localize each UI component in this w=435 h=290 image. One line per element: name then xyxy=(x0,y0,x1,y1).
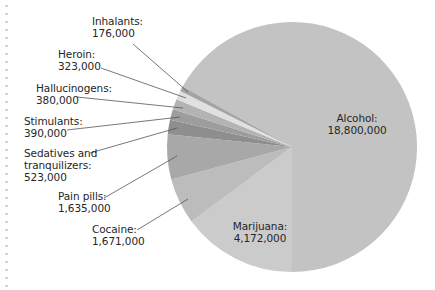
leader-cocaine xyxy=(137,199,188,230)
label-inhalants-name: Inhalants: xyxy=(92,15,143,27)
label-stimulants-value: 390,000 xyxy=(24,127,83,139)
label-alcohol-value: 18,800,000 xyxy=(322,124,392,136)
label-sedatives-name-1: Sedatives and xyxy=(24,147,97,159)
label-hallucinogens-name: Hallucinogens: xyxy=(36,82,112,94)
label-sedatives-value: 523,000 xyxy=(24,171,97,183)
label-stimulants: Stimulants: 390,000 xyxy=(24,115,83,139)
label-pain-pills-value: 1,635,000 xyxy=(58,202,111,214)
leader-inhalants xyxy=(133,44,188,92)
label-marijuana-name: Marijuana: xyxy=(224,220,296,232)
label-stimulants-name: Stimulants: xyxy=(24,115,83,127)
label-sedatives: Sedatives and tranquilizers: 523,000 xyxy=(24,147,97,183)
label-sedatives-name-2: tranquilizers: xyxy=(24,159,97,171)
label-hallucinogens: Hallucinogens: 380,000 xyxy=(36,82,112,106)
label-cocaine-name: Cocaine: xyxy=(92,223,145,235)
label-marijuana-value: 4,172,000 xyxy=(224,232,296,244)
label-pain-pills: Pain pills: 1,635,000 xyxy=(58,190,111,214)
pie-chart xyxy=(0,0,435,290)
label-hallucinogens-value: 380,000 xyxy=(36,94,112,106)
label-heroin: Heroin: 323,000 xyxy=(58,48,101,72)
label-alcohol: Alcohol: 18,800,000 xyxy=(322,112,392,136)
label-inhalants: Inhalants: 176,000 xyxy=(92,15,143,39)
leader-pain-pills xyxy=(104,156,177,198)
label-inhalants-value: 176,000 xyxy=(92,27,143,39)
label-marijuana: Marijuana: 4,172,000 xyxy=(224,220,296,244)
label-pain-pills-name: Pain pills: xyxy=(58,190,111,202)
label-cocaine: Cocaine: 1,671,000 xyxy=(92,223,145,247)
label-cocaine-value: 1,671,000 xyxy=(92,235,145,247)
leader-stimulants xyxy=(67,117,180,130)
label-heroin-value: 323,000 xyxy=(58,60,101,72)
leader-heroin xyxy=(101,68,186,98)
label-heroin-name: Heroin: xyxy=(58,48,101,60)
label-alcohol-name: Alcohol: xyxy=(322,112,392,124)
leader-sedatives xyxy=(90,128,177,153)
